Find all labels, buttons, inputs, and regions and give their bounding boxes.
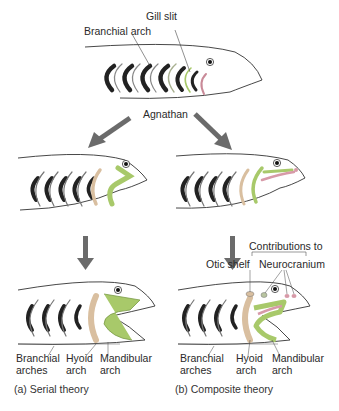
arrow-serial-down	[77, 236, 94, 270]
serial-label-hyoid: Hyoid	[66, 352, 93, 364]
composite-label-mandibular-arch: arch	[272, 364, 292, 376]
composite-label-branchial: Branchial	[180, 352, 224, 364]
composite-early-head	[176, 154, 305, 208]
arrow-to-serial	[88, 118, 130, 148]
arrow-to-composite	[195, 114, 232, 150]
label-otic-shelf: Otic shelf	[206, 258, 250, 270]
label-branchial-arch: Branchial arch	[84, 25, 151, 37]
composite-label-mandibular: Mandibular	[272, 352, 324, 364]
diagram-canvas	[0, 0, 339, 411]
label-contributions-to: Contributions to	[249, 240, 323, 252]
label-neurocranium: Neurocranium	[259, 258, 325, 270]
serial-label-mandibular: Mandibular	[100, 352, 152, 364]
serial-label-mandibular-arch: arch	[100, 364, 120, 376]
serial-label-hyoid-arch: arch	[66, 364, 86, 376]
composite-label-hyoid: Hyoid	[236, 352, 263, 364]
label-agnathan: Agnathan	[143, 108, 188, 120]
serial-label-branchial: Branchial	[16, 352, 60, 364]
label-gill-slit: Gill slit	[146, 10, 177, 22]
caption-serial-theory: (a) Serial theory	[14, 383, 89, 395]
composite-label-hyoid-arch: arch	[236, 364, 256, 376]
serial-early-head	[18, 154, 147, 210]
caption-composite-theory: (b) Composite theory	[175, 383, 273, 395]
agnathan-head	[85, 30, 262, 98]
serial-theory-head	[18, 282, 155, 356]
composite-label-arches: arches	[180, 364, 212, 376]
serial-label-arches: arches	[16, 364, 48, 376]
